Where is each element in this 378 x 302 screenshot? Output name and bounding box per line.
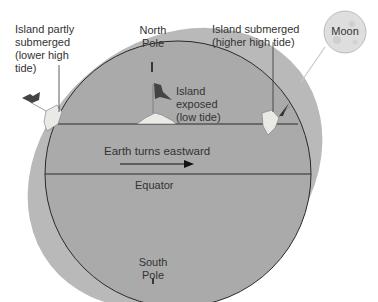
flag-left-icon [22,92,40,103]
earth [45,41,311,302]
label-north-pole: North Pole [137,24,169,50]
label-island-right: Island submerged (higher high tide) [212,23,299,49]
label-equator: Equator [135,179,174,192]
label-island-center: Island exposed (low tide) [176,85,221,124]
label-moon: Moon [325,25,365,38]
label-earth-turns: Earth turns eastward [104,145,210,158]
label-island-left: Island partly submerged (lower high tide… [15,23,74,75]
moon-pointer [301,47,325,82]
label-south-pole: South Pole [136,256,170,282]
